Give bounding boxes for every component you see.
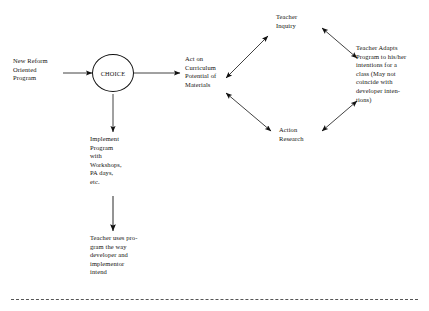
node-teacher-adapts: Teacher Adapts Program to his/her intent… [356,44,428,104]
node-choice: CHOICE [92,54,134,92]
node-action-research: Action Research [279,126,325,143]
diagram-canvas: New Reform Oriented Program CHOICE Act o… [0,0,429,311]
node-act-on-curriculum: Act on Curriculum Potential of Materials [185,55,229,89]
node-implement-program: Implement Program with Workshops, PA day… [90,135,142,187]
node-teacher-uses-program: Teacher uses pro- gram the way developer… [90,234,154,277]
edge-act-to-teacher-inquiry [226,36,268,78]
edge-action-research-to-teacher-adapts [322,101,357,131]
edge-teacher-inquiry-to-teacher-adapts [322,28,357,58]
edge-act-to-action-research [226,93,271,131]
node-new-reform-program: New Reform Oriented Program [13,57,68,83]
footer-divider [11,299,418,300]
node-teacher-inquiry: Teacher Inquiry [276,13,320,30]
